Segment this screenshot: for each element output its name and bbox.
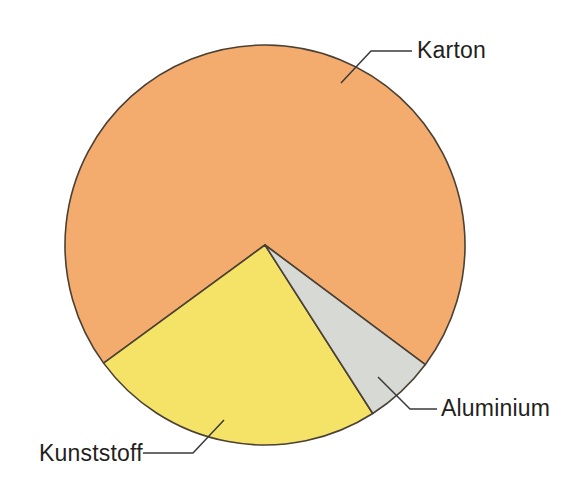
pie-slices [65, 45, 465, 445]
pie-label-kunststoff: Kunststoff [39, 442, 143, 465]
pie-label-aluminium: Aluminium [441, 397, 550, 420]
pie-label-karton: Karton [417, 39, 486, 62]
chart-page: Karton Aluminium Kunststoff [0, 0, 579, 495]
